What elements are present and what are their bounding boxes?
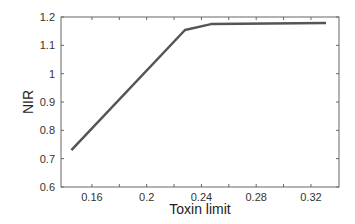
y-tick-label: 1 [49,68,55,80]
y-tick-label: 0.8 [40,124,55,136]
axis-ticks [61,17,339,187]
y-tick-label: 0.6 [40,181,55,193]
data-series [71,23,326,150]
line-chart: 0.160.20.240.280.320.60.70.80.911.11.2 T… [0,0,355,224]
tick-labels: 0.160.20.240.280.320.60.70.80.911.11.2 [40,11,322,203]
y-tick-label: 0.7 [40,153,55,165]
plot-border [61,17,339,187]
x-tick-label: 0.2 [139,191,154,203]
x-tick-label: 0.28 [245,191,266,203]
y-axis-label: NIR [20,90,36,114]
x-tick-label: 0.32 [300,191,321,203]
plot-frame [61,17,339,187]
x-tick-label: 0.16 [81,191,102,203]
y-tick-label: 0.9 [40,96,55,108]
x-axis-label: Toxin limit [169,201,231,217]
y-tick-label: 1.1 [40,39,55,51]
y-tick-label: 1.2 [40,11,55,23]
series-line [71,23,326,150]
